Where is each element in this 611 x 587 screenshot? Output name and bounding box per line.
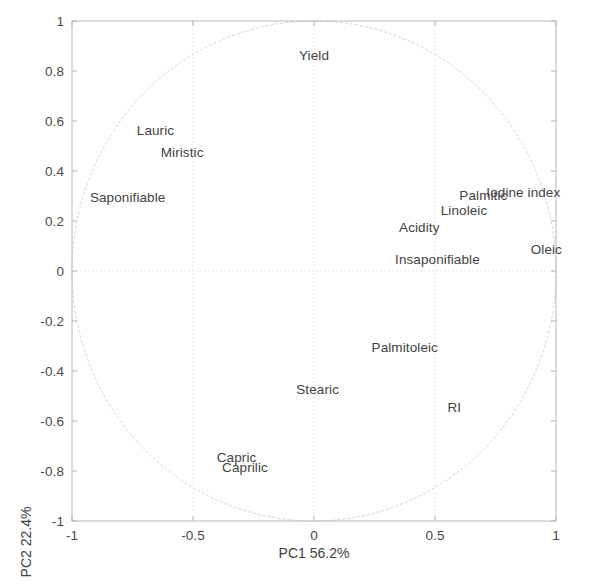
variable-label-yield: Yield [299,47,329,62]
y-tick-label: 0.4 [20,164,64,179]
x-tick-label: -1 [66,528,78,543]
variable-label-miristic: Miristic [161,145,204,160]
variable-label-insaponifiable: Insaponifiable [395,251,480,266]
grid-lines [72,21,556,521]
variable-label-ri: RI [448,400,462,415]
y-tick-label: 0.8 [20,64,64,79]
variable-label-linoleic: Linoleic [441,202,488,217]
x-tick-label: 1 [552,528,560,543]
variable-label-caprilic: Caprilic [222,460,268,475]
y-tick-label: 1 [20,14,64,29]
pca-correlation-circle-figure: -1-0.8-0.6-0.4-0.200.20.40.60.81 -1-0.50… [0,0,611,587]
variable-label-iodine-index: Iodine index [486,185,560,200]
y-axis-title: PC2 22.4% [18,477,34,587]
y-tick-label: -0.4 [20,364,64,379]
plot-canvas [0,0,611,587]
variable-label-lauric: Lauric [137,122,174,137]
x-tick-label: 0.5 [425,528,444,543]
y-tick-label: 0.2 [20,214,64,229]
variable-label-oleic: Oleic [531,241,562,256]
x-axis-title: PC1 56.2% [279,545,350,561]
variable-label-saponifiable: Saponifiable [90,190,166,205]
variable-label-acidity: Acidity [399,220,439,235]
y-tick-label: 0 [20,264,64,279]
variable-label-stearic: Stearic [296,381,339,396]
y-tick-label: 0.6 [20,114,64,129]
y-tick-label: -0.2 [20,314,64,329]
y-tick-label: -0.6 [20,414,64,429]
variable-label-palmitoleic: Palmitoleic [372,340,438,355]
x-tick-label: 0 [310,528,318,543]
x-tick-label: -0.5 [181,528,205,543]
